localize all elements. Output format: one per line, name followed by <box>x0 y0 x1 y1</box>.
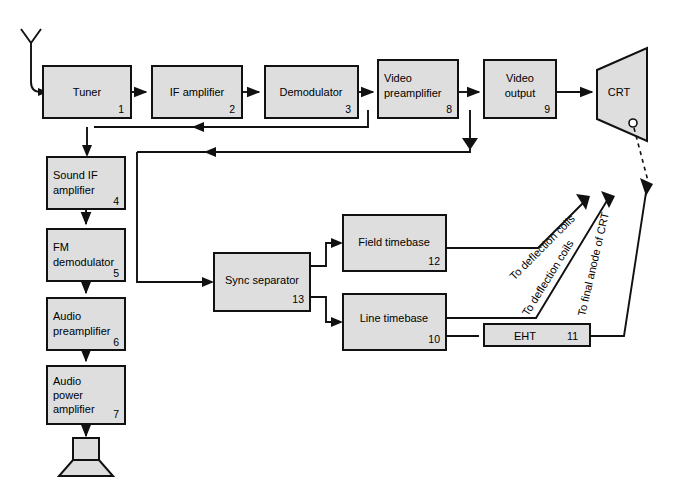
label-to-final-anode-of-crt: To final anode of CRT <box>575 211 611 317</box>
block-sync-separator-number: 13 <box>292 293 304 305</box>
block-sound-if-label-2: amplifier <box>53 184 95 196</box>
block-fm-demodulator[interactable]: FM demodulator 5 <box>47 229 125 281</box>
block-sync-separator-label: Sync separator <box>225 274 299 286</box>
block-audio-preamp-label-2: preamplifier <box>53 325 111 337</box>
block-fm-demod-label-2: demodulator <box>53 256 114 268</box>
arrowhead-field-in <box>331 238 343 248</box>
block-video-preamplifier-label-2: preamplifier <box>384 87 442 99</box>
arrowhead-sync-feedback <box>204 147 216 157</box>
block-audio-preamp-number: 6 <box>113 336 119 348</box>
arrowhead-soundif-in <box>82 145 92 157</box>
speaker-icon <box>59 438 113 476</box>
block-field-timebase-label: Field timebase <box>358 236 430 248</box>
block-eht-label: EHT <box>514 330 536 342</box>
block-video-output-label-1: Video <box>506 72 534 84</box>
arrowhead-final-anode <box>640 178 653 196</box>
block-audio-power-number: 7 <box>113 408 119 420</box>
arrowhead-line-in <box>331 317 343 327</box>
block-audio-power-label-3: amplifier <box>53 403 95 415</box>
block-audio-preamp-label-1: Audio <box>53 310 81 322</box>
block-diagram: Tuner 1 IF amplifier 2 Demodulator 3 Vid… <box>0 0 688 485</box>
block-eht[interactable]: EHT 11 <box>484 324 590 346</box>
arrowhead-soundif-feedback <box>192 122 204 132</box>
diagram-canvas: Tuner 1 IF amplifier 2 Demodulator 3 Vid… <box>0 0 688 485</box>
block-field-timebase[interactable]: Field timebase 12 <box>343 215 446 271</box>
block-line-timebase-label: Line timebase <box>360 312 429 324</box>
block-if-amplifier-label: IF amplifier <box>170 86 225 98</box>
block-audio-preamplifier[interactable]: Audio preamplifier 6 <box>47 298 125 350</box>
block-demodulator-label: Demodulator <box>280 86 343 98</box>
block-audio-power-label-1: Audio <box>53 375 81 387</box>
block-video-output-label-2: output <box>505 87 536 99</box>
wire-sync-input-run <box>137 152 208 282</box>
block-sync-separator[interactable]: Sync separator 13 <box>214 253 310 311</box>
block-video-output[interactable]: Video output 9 <box>484 60 556 118</box>
block-demodulator[interactable]: Demodulator 3 <box>265 66 358 118</box>
block-tuner-label: Tuner <box>73 86 102 98</box>
block-eht-number: 11 <box>567 330 578 342</box>
block-if-amplifier-number: 2 <box>229 103 235 115</box>
block-fm-demod-number: 5 <box>113 267 119 279</box>
block-if-amplifier[interactable]: IF amplifier 2 <box>152 66 242 118</box>
crt-label: CRT <box>608 86 631 98</box>
block-tuner-number: 1 <box>118 103 124 115</box>
arrowhead-videopre-drop <box>462 138 478 150</box>
block-tuner[interactable]: Tuner 1 <box>43 66 131 118</box>
block-audio-power-amplifier[interactable]: Audio power amplifier 7 <box>47 366 125 424</box>
block-sound-if-label-1: Sound IF <box>53 169 98 181</box>
block-demodulator-number: 3 <box>345 103 351 115</box>
block-video-preamplifier-number: 8 <box>446 103 452 115</box>
block-field-timebase-number: 12 <box>428 255 440 267</box>
block-sound-if-amplifier[interactable]: Sound IF amplifier 4 <box>47 157 125 209</box>
block-video-output-number: 9 <box>544 103 550 115</box>
block-video-preamplifier-label-1: Video <box>384 72 412 84</box>
crt-shape[interactable]: CRT <box>597 48 647 141</box>
block-sound-if-number: 4 <box>113 195 119 207</box>
block-audio-power-label-2: power <box>53 389 83 401</box>
block-video-preamplifier[interactable]: Video preamplifier 8 <box>378 60 458 118</box>
block-fm-demod-label-1: FM <box>53 241 69 253</box>
block-line-timebase-number: 10 <box>428 333 440 345</box>
arrowhead-sync-in <box>202 277 214 287</box>
block-line-timebase[interactable]: Line timebase 10 <box>343 294 446 350</box>
